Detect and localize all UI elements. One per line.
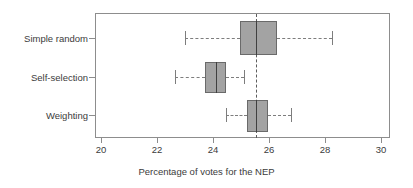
x-axis-title: Percentage of votes for the NEP: [0, 167, 413, 177]
x-axis-tick: [325, 138, 326, 143]
plot-area: [95, 13, 390, 138]
x-axis-tick-label: 28: [320, 145, 331, 155]
x-axis-tick: [101, 138, 102, 143]
x-axis-tick: [157, 138, 158, 143]
x-axis-tick: [213, 138, 214, 143]
boxplot-figure: Simple random Self-selection Weighting P…: [0, 0, 413, 188]
x-axis-tick-label: 22: [152, 145, 163, 155]
x-axis-tick: [269, 138, 270, 143]
category-label-weighting: Weighting: [46, 111, 88, 121]
x-axis-tick-label: 20: [96, 145, 107, 155]
x-axis-tick-label: 30: [376, 145, 387, 155]
x-axis-tick-label: 26: [264, 145, 275, 155]
x-axis-tick: [381, 138, 382, 143]
category-label-simple-random: Simple random: [24, 34, 88, 44]
x-axis-tick-label: 24: [208, 145, 219, 155]
category-axis: Simple random Self-selection Weighting: [0, 0, 88, 188]
category-label-self-selection: Self-selection: [31, 73, 88, 83]
